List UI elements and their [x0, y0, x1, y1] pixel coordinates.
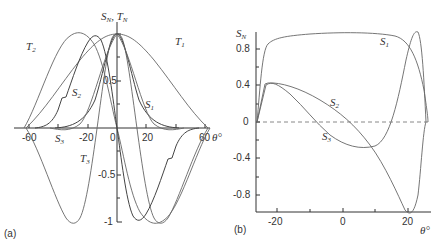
a-ylabel: SN, TN: [101, 10, 128, 24]
label-b-S2: S2: [330, 96, 340, 110]
label-T1: T1: [175, 35, 185, 49]
b-xtick-neg20: -20: [268, 216, 283, 227]
b-ytick-0.8: 0.8: [236, 43, 250, 54]
panel-a-label: (a): [4, 228, 16, 239]
curve-b-S3: [257, 32, 426, 148]
label-S2: S2: [72, 86, 82, 100]
panel-b-x-ticks: [277, 208, 408, 212]
b-ytick-0.4: 0.4: [236, 79, 250, 90]
label-b-S3: S3: [322, 130, 332, 144]
panel-b-y-ticks: [256, 49, 260, 195]
label-S1: S1: [145, 98, 154, 112]
a-xtick-neg20: -20: [79, 132, 94, 143]
panel-b-label: (b): [234, 224, 246, 235]
a-ytick-neg0.5: -0.5: [98, 169, 116, 180]
label-T2: T2: [26, 40, 36, 54]
a-xlabel: θ°: [212, 131, 222, 143]
b-ylabel: SN: [236, 27, 247, 41]
label-S3: S3: [55, 132, 65, 146]
a-xtick-0: 0: [110, 132, 116, 143]
b-ytick-0: 0: [243, 116, 249, 127]
label-T3: T3: [80, 152, 90, 166]
panel-b: 0.8 0.4 0 -0.4 -0.8 -20 0 20 θ° SN (b) S…: [233, 27, 431, 236]
b-xtick-0: 0: [340, 216, 346, 227]
b-xtick-20: 20: [402, 216, 414, 227]
panel-a: -60 -20 0 20 60 0.5 -0.5 -1 SN, TN θ° (a…: [4, 10, 222, 239]
figure: -60 -20 0 20 60 0.5 -0.5 -1 SN, TN θ° (a…: [0, 0, 445, 242]
a-xtick-20: 20: [142, 132, 154, 143]
b-ytick-neg0.8: -0.8: [233, 189, 251, 200]
a-ytick-neg1: -1: [104, 216, 113, 227]
curve-b-S2: [257, 83, 426, 213]
label-b-S1: S1: [380, 35, 389, 49]
b-ytick-neg0.4: -0.4: [233, 152, 251, 163]
b-xlabel: θ°: [420, 224, 430, 236]
